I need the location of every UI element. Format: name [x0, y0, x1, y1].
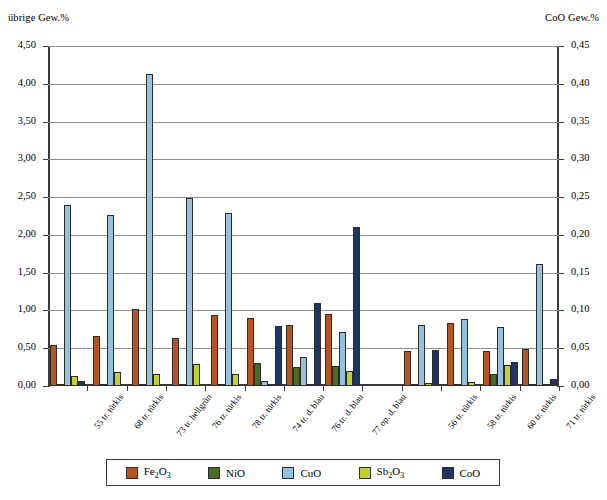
- bar-NiO-0[interactable]: [57, 384, 64, 386]
- bar-Sb2O3-3[interactable]: [193, 364, 200, 386]
- bar-NiO-1[interactable]: [100, 384, 107, 386]
- bar-Fe2O3-2[interactable]: [132, 309, 139, 386]
- bar-group: [323, 227, 362, 386]
- bar-CoO-11[interactable]: [511, 362, 518, 386]
- bar-Sb2O3-11[interactable]: [504, 365, 511, 386]
- bar-group: [166, 198, 205, 386]
- plot-area: 0,000,501,001,502,002,503,003,504,004,50…: [48, 46, 559, 386]
- bar-CuO-4[interactable]: [225, 213, 232, 386]
- bar-NiO-3[interactable]: [179, 384, 186, 386]
- bar-CoO-6[interactable]: [314, 303, 321, 386]
- bar-NiO-12[interactable]: [529, 384, 536, 386]
- x-axis-tick: [284, 386, 285, 391]
- bar-Fe2O3-1[interactable]: [93, 336, 100, 386]
- bar-CoO-5[interactable]: [275, 326, 282, 386]
- y-axis-left-tick: [43, 122, 48, 123]
- bar-Sb2O3-4[interactable]: [232, 374, 239, 386]
- y-axis-right-tick: [559, 122, 564, 123]
- bar-Fe2O3-0[interactable]: [50, 345, 57, 386]
- y-axis-right-tick-label: 0,30: [571, 152, 589, 163]
- x-axis-category-label: 73 tr. hellgrün: [174, 392, 213, 438]
- legend-swatch-cu-icon: [282, 467, 294, 479]
- bar-CoO-7[interactable]: [353, 227, 360, 386]
- bar-CuO-1[interactable]: [107, 215, 114, 387]
- y-axis-left-tick-label: 0,00: [18, 379, 36, 390]
- bar-Fe2O3-5[interactable]: [247, 318, 254, 386]
- y-axis-right-tick: [559, 235, 564, 236]
- y-axis-left-tick-label: 1,50: [18, 266, 36, 277]
- bar-Sb2O3-1[interactable]: [114, 372, 121, 386]
- y-axis-right-tick: [559, 348, 564, 349]
- bar-CoO-12[interactable]: [550, 379, 557, 386]
- y-axis-left-tick-label: 2,50: [18, 190, 36, 201]
- bar-CoO-0[interactable]: [78, 381, 85, 386]
- bar-CuO-5[interactable]: [261, 381, 268, 386]
- y-axis-right-tick-label: 0,20: [571, 228, 589, 239]
- bar-CuO-0[interactable]: [64, 205, 71, 386]
- bar-CuO-12[interactable]: [536, 264, 543, 386]
- y-axis-right-tick-label: 0,00: [571, 379, 589, 390]
- chart-container: übrige Gew.% CoO Gew.% 0,000,501,001,502…: [0, 0, 607, 500]
- y-axis-right-tick: [559, 197, 564, 198]
- bar-NiO-4[interactable]: [218, 384, 225, 386]
- bar-Sb2O3-6[interactable]: [307, 384, 314, 386]
- y-axis-left-tick-label: 4,00: [18, 77, 36, 88]
- bar-Fe2O3-6[interactable]: [286, 325, 293, 386]
- x-axis-category-label: 71 tr. türkis: [564, 392, 597, 431]
- bar-Fe2O3-12[interactable]: [522, 349, 529, 386]
- y-axis-left-tick-label: 0,50: [18, 341, 36, 352]
- x-axis-category-label: 58 tr. türkis: [485, 392, 518, 431]
- x-axis-category-label: 77 op. d. blau: [370, 392, 408, 437]
- bar-Sb2O3-10[interactable]: [468, 382, 475, 386]
- bar-CuO-2[interactable]: [146, 74, 153, 386]
- x-axis-tick: [87, 386, 88, 391]
- y-axis-right-tick-label: 0,10: [571, 303, 589, 314]
- legend-item-ni[interactable]: NiO: [208, 467, 245, 479]
- bar-CuO-11[interactable]: [497, 327, 504, 386]
- bar-CuO-6[interactable]: [300, 357, 307, 386]
- bar-Sb2O3-0[interactable]: [71, 376, 78, 386]
- bar-CuO-3[interactable]: [186, 198, 193, 386]
- bar-NiO-5[interactable]: [254, 363, 261, 386]
- bar-group: [441, 319, 480, 386]
- chart-legend: Fe2O3NiOCuOSb2O3CoO: [106, 459, 500, 486]
- y-axis-left-tick: [43, 84, 48, 85]
- bar-Fe2O3-4[interactable]: [211, 315, 218, 386]
- bar-group: [284, 303, 323, 386]
- bar-NiO-2[interactable]: [139, 384, 146, 386]
- y-axis-left-tick-label: 3,00: [18, 152, 36, 163]
- legend-item-co[interactable]: CoO: [442, 467, 481, 479]
- bar-CoO-9[interactable]: [432, 350, 439, 386]
- legend-item-sb[interactable]: Sb2O3: [359, 465, 405, 480]
- bar-NiO-7[interactable]: [332, 366, 339, 386]
- legend-item-fe[interactable]: Fe2O3: [126, 465, 171, 480]
- y-axis-left-tick: [43, 386, 48, 387]
- bar-NiO-10[interactable]: [454, 384, 461, 386]
- legend-item-cu[interactable]: CuO: [282, 467, 321, 479]
- bar-Fe2O3-7[interactable]: [325, 314, 332, 386]
- bar-NiO-11[interactable]: [490, 374, 497, 386]
- bar-group: [480, 327, 519, 386]
- bar-NiO-6[interactable]: [293, 367, 300, 386]
- bar-Sb2O3-5[interactable]: [268, 384, 275, 386]
- bar-group: [205, 213, 244, 386]
- y-axis-left-tick: [43, 46, 48, 47]
- legend-label: Sb2O3: [377, 465, 405, 480]
- bar-CuO-10[interactable]: [461, 319, 468, 386]
- legend-label: Fe2O3: [144, 465, 171, 480]
- bar-NiO-9[interactable]: [411, 384, 418, 386]
- bar-Sb2O3-9[interactable]: [425, 383, 432, 386]
- legend-label: CuO: [300, 467, 321, 479]
- bar-Sb2O3-12[interactable]: [543, 384, 550, 386]
- bar-Fe2O3-9[interactable]: [404, 351, 411, 386]
- bar-CuO-7[interactable]: [339, 332, 346, 386]
- bar-Sb2O3-7[interactable]: [346, 371, 353, 386]
- x-axis-tick: [166, 386, 167, 391]
- y-axis-left-tick: [43, 197, 48, 198]
- bar-CuO-9[interactable]: [418, 325, 425, 386]
- bar-Sb2O3-2[interactable]: [153, 374, 160, 386]
- bar-Fe2O3-11[interactable]: [483, 351, 490, 387]
- bar-Fe2O3-10[interactable]: [447, 323, 454, 386]
- bar-Fe2O3-3[interactable]: [172, 338, 179, 386]
- x-axis-tick: [402, 386, 403, 391]
